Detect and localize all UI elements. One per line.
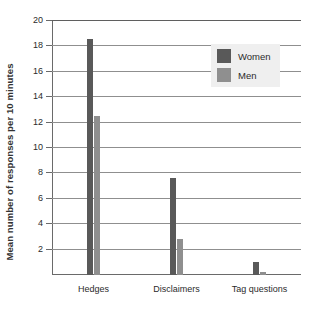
y-tick-label: 8 <box>38 167 43 177</box>
y-tick-label: 14 <box>33 91 43 101</box>
legend-label-women: Women <box>238 51 271 62</box>
y-tick-label: 12 <box>33 117 43 127</box>
x-tick-label: Hedges <box>78 284 109 294</box>
y-tick-label: 6 <box>38 193 43 203</box>
y-tick-label: 10 <box>33 142 43 152</box>
y-tick-label: 18 <box>33 40 43 50</box>
y-tick-label: 2 <box>38 244 43 254</box>
bar-group: Hedges <box>52 21 135 275</box>
x-tick-label: Disclaimers <box>153 284 200 294</box>
bar-women-tag-questions <box>253 262 259 275</box>
legend: Women Men <box>211 44 280 87</box>
y-tick-label: 20 <box>33 15 43 25</box>
legend-item-men: Men <box>217 68 271 82</box>
bar-group: Disclaimers <box>135 21 218 275</box>
y-tick-label: 4 <box>38 218 43 228</box>
x-tick-label: Tag questions <box>232 284 288 294</box>
bar-men-disclaimers <box>177 239 183 275</box>
legend-item-women: Women <box>217 49 271 63</box>
bar-chart: Mean number of responses per 10 minutes … <box>0 0 312 324</box>
bar-women-disclaimers <box>170 178 176 275</box>
bar-women-hedges <box>87 39 93 275</box>
bar-men-tag-questions <box>260 272 266 275</box>
legend-swatch-men-icon <box>217 68 231 82</box>
bar-men-hedges <box>94 116 100 275</box>
y-tick-label: 16 <box>33 66 43 76</box>
legend-label-men: Men <box>238 70 256 81</box>
legend-swatch-women-icon <box>217 49 231 63</box>
y-axis-title: Mean number of responses per 10 minutes <box>0 0 18 324</box>
